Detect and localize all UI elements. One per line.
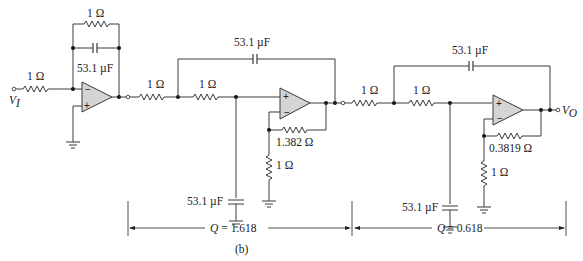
stage3-feedback-capacitor-label: 53.1 µF xyxy=(452,44,488,57)
opamp-inverting-sign: − xyxy=(284,107,290,118)
stage1-feedback-resistor-label: 1 Ω xyxy=(87,7,104,19)
stage2-feedback-capacitor-label: 53.1 µF xyxy=(234,36,270,49)
junction-dot xyxy=(117,46,121,50)
junction-dot xyxy=(548,108,552,112)
opamp-noninverting-sign: + xyxy=(496,98,502,109)
stage2-rf xyxy=(282,127,307,133)
stage2-r2-label: 1 Ω xyxy=(199,78,216,90)
stage2-ground-capacitor-label: 53.1 µF xyxy=(187,195,223,208)
output-terminal xyxy=(556,108,560,112)
stage2-rg xyxy=(266,155,272,180)
stage3-rf-label: 0.3819 Ω xyxy=(489,142,532,154)
stage3-feedback-capacitor xyxy=(469,61,473,71)
stage2-r1 xyxy=(139,94,164,100)
ground-icon xyxy=(66,142,80,148)
q-dimension-lines: Q= 1.618 Q= 0.618 (b) xyxy=(128,201,566,256)
filter-circuit-diagram: VI 1 Ω 1 Ω 53.1 µF − + xyxy=(0,0,583,261)
stage3-q-label: Q= 0.618 xyxy=(437,222,483,234)
input-label: VI xyxy=(9,94,21,109)
stage2-r1-label: 1 Ω xyxy=(147,78,164,90)
stage3-r2-label: 1 Ω xyxy=(413,84,430,96)
stage3-r1 xyxy=(352,100,377,106)
figure-caption: (b) xyxy=(235,243,249,256)
stage1-feedback-capacitor xyxy=(93,43,97,53)
stage-1: VI 1 Ω 1 Ω 53.1 µF − + xyxy=(9,7,130,148)
stage3-r2 xyxy=(409,100,434,106)
junction-dot xyxy=(71,46,75,50)
stage2-q-label: Q= 1.618 xyxy=(210,222,257,234)
stage1-feedback-resistor xyxy=(84,21,109,27)
stage1-input-resistor-label: 1 Ω xyxy=(27,70,44,82)
stage3-r1-label: 1 Ω xyxy=(361,84,378,96)
stage2-rf-label: 1.382 Ω xyxy=(276,136,313,148)
ground-icon xyxy=(477,207,491,213)
stage1-input-resistor xyxy=(23,86,48,92)
ground-icon xyxy=(262,201,276,207)
stage3-ground-capacitor-label: 53.1 µF xyxy=(402,201,438,214)
opamp-noninverting-sign: + xyxy=(283,91,289,102)
stage3-rg-label: 1 Ω xyxy=(491,166,508,178)
opamp-inverting-sign: − xyxy=(497,113,503,124)
stage1-output-terminal xyxy=(126,95,130,99)
input-terminal xyxy=(12,87,16,91)
output-label: VO xyxy=(562,104,578,119)
stage2-output-terminal xyxy=(341,101,345,105)
opamp-noninverting-sign: + xyxy=(84,100,90,111)
stage3-rg xyxy=(481,161,487,186)
stage1-feedback-capacitor-label: 53.1 µF xyxy=(77,62,113,75)
stage2-r2 xyxy=(193,94,218,100)
opamp-inverting-sign: − xyxy=(85,84,91,95)
stage-3: 1 Ω 53.1 µF 1 Ω 53.1 µF + − 0 xyxy=(345,44,578,233)
stage2-feedback-capacitor xyxy=(253,54,257,64)
stage2-rg-label: 1 Ω xyxy=(276,159,293,171)
stage3-rf xyxy=(497,133,522,139)
stage-2: 1 Ω 53.1 µF 1 Ω 53.1 µF + − 1.382 xyxy=(130,36,345,227)
